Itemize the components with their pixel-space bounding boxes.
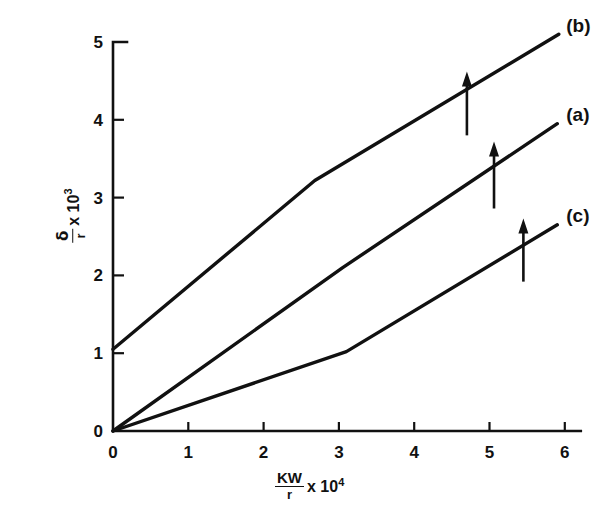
arrow-head: [489, 142, 499, 157]
y-tick-label: 1: [81, 345, 103, 362]
x-axis-multiplier-group: x 104: [304, 477, 344, 495]
arrow-annotation-c: [518, 219, 528, 282]
curve-c: [113, 225, 557, 431]
y-axis-multiplier: x 10: [64, 195, 81, 226]
x-axis-denominator: r: [275, 487, 304, 501]
x-tick-label: 2: [259, 444, 268, 461]
chart-plot-area: [0, 0, 599, 522]
y-tick-label: 0: [81, 423, 103, 440]
arrow-annotation-b: [462, 72, 472, 136]
arrow-head: [462, 72, 472, 87]
x-tick-label: 1: [184, 444, 193, 461]
y-tick-label: 4: [81, 111, 103, 128]
y-axis-exponent: 3: [62, 188, 74, 194]
axis-spines: [113, 42, 581, 431]
x-tick-label: 0: [108, 444, 117, 461]
y-tick-label: 5: [81, 34, 103, 51]
y-axis-fraction: δ r: [56, 229, 88, 243]
x-axis-title: KW r x 104: [275, 470, 344, 502]
curve-label-b: (b): [566, 15, 590, 34]
x-axis-multiplier: x 10: [307, 478, 338, 495]
figure-container: 0123456012345 (b)(a)(c) KW r x 104 δ r x…: [0, 0, 599, 522]
x-axis-fraction: KW r: [275, 470, 304, 502]
y-axis-title: δ r x 103: [56, 156, 88, 276]
x-tick-label: 6: [560, 444, 569, 461]
curve-b: [113, 34, 559, 349]
arrow-head: [518, 219, 528, 234]
x-tick-label: 3: [334, 444, 343, 461]
curves-group: [113, 34, 559, 431]
y-axis-multiplier-group: x 103: [63, 188, 81, 228]
x-axis-numerator: KW: [275, 470, 304, 487]
axes-group: [113, 42, 581, 431]
y-axis-denominator: r: [74, 229, 88, 243]
curve-label-a: (a): [566, 105, 589, 124]
x-tick-label: 4: [409, 444, 418, 461]
curve-label-c: (c): [566, 205, 589, 224]
y-axis-numerator: δ: [56, 229, 73, 243]
x-tick-label: 5: [485, 444, 494, 461]
x-axis-exponent: 4: [338, 476, 344, 488]
arrow-annotation-a: [489, 142, 499, 209]
